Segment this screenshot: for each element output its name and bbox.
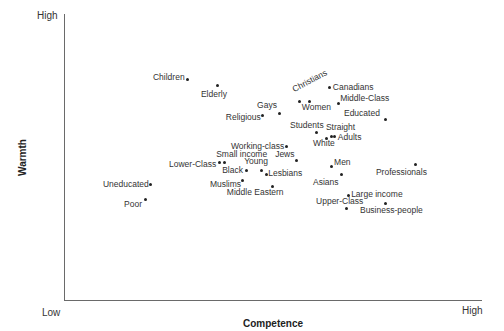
data-point-label: Lower-Class [169,160,216,169]
data-point-label: Adults [338,133,362,142]
x-axis-line [64,300,482,301]
data-point [295,159,298,162]
data-point [260,169,263,172]
data-point [384,118,387,121]
data-point-label: Middle-Class [340,94,389,103]
data-point [261,114,264,117]
data-point [278,112,281,115]
data-point-label: Straight [326,123,355,132]
data-point [345,207,348,210]
data-point [241,179,244,182]
x-tick-low: Low [42,307,60,318]
data-point-label: Students [290,121,324,130]
data-point [223,161,226,164]
data-point [315,131,318,134]
data-point-label: Upper-Class [316,197,363,206]
data-point-label: Young [244,157,268,166]
data-point-label: Professionals [376,168,427,177]
data-point [216,84,219,87]
data-point-label: Canadians [333,83,374,92]
data-point-label: Elderly [201,90,227,99]
data-point-label: Uneducated [103,180,149,189]
data-point-label: Women [302,103,331,112]
data-point-label: White [313,139,335,148]
data-point-label: Christians [291,68,328,93]
data-point-label: Asians [313,178,339,187]
data-point-label: Religious [226,113,261,122]
data-point-label: Jews [275,150,294,159]
y-axis-title: Warmth [17,139,28,176]
data-point-label: Men [334,158,351,167]
data-point [186,78,189,81]
data-point-label: Middle Eastern [227,188,284,197]
data-point [330,165,333,168]
data-point-label: Gays [257,101,277,110]
data-point [149,183,152,186]
data-point [285,145,288,148]
data-point-label: Black [222,166,243,175]
data-point-label: Business-people [360,206,423,215]
scatter-chart: High Low High Competence Warmth Children… [0,0,504,331]
y-tick-high: High [37,10,58,21]
data-point-label: Children [153,73,185,82]
data-point [298,100,301,103]
data-point [340,173,343,176]
data-point-label: Educated [344,109,380,118]
data-point [218,161,221,164]
x-tick-high: High [462,305,483,316]
data-point [144,198,147,201]
data-point-label: Poor [124,200,142,209]
data-point-label: Lesbians [268,169,302,178]
y-axis-line [64,14,65,301]
data-point [328,86,331,89]
data-point [245,169,248,172]
x-axis-title: Competence [243,318,303,329]
data-point [414,163,417,166]
